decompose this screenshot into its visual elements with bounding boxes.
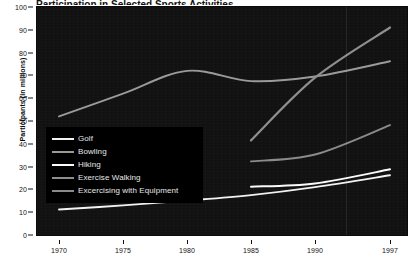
y-axis-tick: [28, 7, 33, 8]
y-axis-tick-label: 70: [19, 72, 27, 79]
y-axis-tick: [28, 166, 33, 167]
legend-label-excercising-with-equipment: Excercising with Equipment: [78, 186, 178, 195]
y-axis-tick-label: 0: [23, 232, 27, 239]
y-axis-tick: [28, 212, 33, 213]
legend-swatch-excercising-with-equipment: [52, 190, 74, 192]
x-axis-tick: [390, 240, 391, 244]
y-axis-tick-label: 10: [19, 209, 27, 216]
x-axis-tick-label: 1975: [115, 247, 131, 254]
legend-item[interactable]: Golf: [52, 132, 197, 145]
y-axis-tick: [28, 235, 33, 236]
legend-label-bowling: Bowling: [78, 147, 107, 156]
y-axis-tick-label: 60: [19, 95, 27, 102]
y-axis-tick-label: 50: [19, 118, 27, 125]
legend-swatch-golf: [52, 138, 74, 140]
chart-legend: Golf Bowling Hiking Exercise Walking Exc…: [46, 127, 203, 203]
x-axis-tick: [187, 240, 188, 244]
y-axis-tick: [28, 52, 33, 53]
y-axis-tick: [28, 98, 33, 99]
y-axis-tick: [28, 189, 33, 190]
y-axis-tick-label: 40: [19, 140, 27, 147]
chart-figure: Participation in Selected Sports Activit…: [0, 0, 419, 264]
y-axis-tick-label: 90: [19, 26, 27, 33]
x-axis-labels: 197019751980198519901997: [0, 240, 419, 262]
y-axis-tick-label: 80: [19, 49, 27, 56]
legend-item[interactable]: Hiking: [52, 158, 197, 171]
vertical-gridline: [346, 7, 347, 235]
x-axis-tick: [315, 240, 316, 244]
series-line-exercise-walking: [251, 28, 390, 141]
y-axis-tick-label: 30: [19, 163, 27, 170]
y-axis-tick: [28, 75, 33, 76]
x-axis-tick-label: 1990: [307, 247, 323, 254]
y-axis-tick: [28, 121, 33, 122]
series-line-bowling: [59, 61, 390, 116]
x-axis-tick-label: 1970: [51, 247, 67, 254]
legend-label-golf: Golf: [78, 134, 93, 143]
x-axis-tick-label: 1985: [243, 247, 259, 254]
y-axis-tick: [28, 143, 33, 144]
x-axis-tick-label: 1980: [179, 247, 195, 254]
series-line-excercising-with-equipment: [251, 125, 390, 161]
x-axis-tick: [123, 240, 124, 244]
y-axis-labels: 0102030405060708090100: [0, 0, 34, 242]
legend-label-hiking: Hiking: [78, 160, 101, 169]
legend-swatch-hiking: [52, 164, 74, 166]
legend-label-exercise-walking: Exercise Walking: [78, 173, 141, 182]
legend-swatch-exercise-walking: [52, 177, 74, 179]
y-axis-tick: [28, 29, 33, 30]
legend-item[interactable]: Exercise Walking: [52, 171, 197, 184]
legend-swatch-bowling: [52, 151, 74, 153]
y-axis-tick-label: 20: [19, 186, 27, 193]
x-axis-tick: [251, 240, 252, 244]
legend-item[interactable]: Excercising with Equipment: [52, 184, 197, 197]
x-axis-tick-label: 1997: [382, 247, 398, 254]
x-axis-tick: [59, 240, 60, 244]
legend-item[interactable]: Bowling: [52, 145, 197, 158]
y-axis-tick-label: 100: [15, 4, 27, 11]
chart-title: Participation in Selected Sports Activit…: [36, 0, 336, 5]
